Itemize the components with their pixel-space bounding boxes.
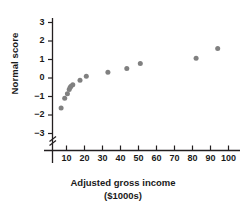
y-axis-ticks	[48, 23, 53, 134]
x-tick-label: 100	[216, 153, 242, 163]
data-point	[194, 56, 199, 61]
data-point	[84, 74, 89, 79]
x-axis-title-line1: Adjusted gross income	[0, 176, 246, 189]
y-tick-label: −2	[19, 109, 45, 119]
x-axis-title: Adjusted gross income ($1000s)	[0, 176, 246, 202]
y-tick-label: 1	[19, 54, 45, 64]
y-tick-label: −1	[19, 91, 45, 101]
y-tick-label: 3	[19, 17, 45, 27]
data-point	[62, 96, 67, 101]
data-point	[70, 82, 75, 87]
axis-lines	[44, 18, 240, 163]
data-point	[138, 61, 143, 66]
y-tick-label: 0	[19, 72, 45, 82]
data-point	[124, 66, 129, 71]
data-point	[59, 105, 64, 110]
data-point	[78, 78, 83, 83]
x-axis-ticks	[67, 146, 229, 151]
data-point	[215, 46, 220, 51]
data-point-group	[59, 46, 221, 111]
x-axis-title-line2: ($1000s)	[0, 189, 246, 202]
normal-probability-plot: Normal score Adjusted gross income ($100…	[0, 0, 246, 212]
y-tick-label: 2	[19, 35, 45, 45]
data-point	[65, 91, 70, 96]
data-point	[105, 70, 110, 75]
y-tick-label: −3	[19, 128, 45, 138]
